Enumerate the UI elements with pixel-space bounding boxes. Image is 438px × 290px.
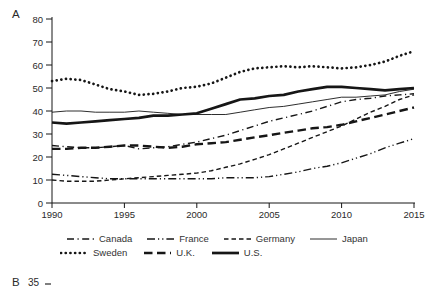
legend-label: Japan: [342, 233, 368, 244]
legend-label: U.K.: [176, 247, 194, 258]
line-chart: 0102030405060708019901995200020052010201…: [0, 0, 438, 232]
legend-line-sample-icon: [309, 234, 338, 244]
x-tick-label: 2000: [186, 209, 207, 220]
legend-line-sample-icon: [143, 248, 172, 258]
y-tick-label: 40: [32, 106, 43, 117]
series-line-france: [52, 139, 414, 179]
legend-item-france: France: [146, 233, 209, 244]
x-tick-label: 2015: [403, 209, 424, 220]
figure-panel: A 01020304050607080199019952000200520102…: [0, 0, 438, 290]
x-tick-label: 1990: [41, 209, 62, 220]
x-tick-label: 1995: [114, 209, 135, 220]
y-tick-label: 20: [32, 152, 43, 163]
legend-row: CanadaFranceGermanyJapan: [66, 233, 438, 244]
legend-item-sweden: Sweden: [60, 247, 127, 258]
legend-item-japan: Japan: [309, 233, 368, 244]
legend-label: Canada: [99, 233, 132, 244]
series-line-germany: [52, 95, 414, 181]
x-tick-label: 2010: [331, 209, 352, 220]
legend-label: Sweden: [93, 247, 127, 258]
legend-label: U.S.: [244, 247, 262, 258]
legend-item-canada: Canada: [66, 233, 132, 244]
chart-legend: CanadaFranceGermanyJapanSwedenU.K.U.S.: [0, 233, 438, 258]
x-tick-label: 2005: [259, 209, 280, 220]
legend-item-uk: U.K.: [143, 247, 194, 258]
panel-b-axis-tick: [0, 276, 60, 290]
y-tick-label: 30: [32, 129, 43, 140]
legend-line-sample-icon: [223, 234, 252, 244]
y-tick-label: 80: [32, 14, 43, 25]
legend-item-germany: Germany: [223, 233, 295, 244]
legend-line-sample-icon: [60, 248, 89, 258]
y-tick-label: 10: [32, 175, 43, 186]
y-tick-label: 0: [38, 198, 43, 209]
legend-line-sample-icon: [211, 248, 240, 258]
series-line-us: [52, 87, 414, 124]
legend-line-sample-icon: [66, 234, 95, 244]
y-tick-label: 70: [32, 37, 43, 48]
legend-line-sample-icon: [146, 234, 175, 244]
legend-row: SwedenU.K.U.S.: [60, 247, 438, 258]
y-tick-label: 60: [32, 60, 43, 71]
legend-label: Germany: [256, 233, 295, 244]
legend-item-us: U.S.: [211, 247, 262, 258]
y-tick-label: 50: [32, 83, 43, 94]
legend-label: France: [179, 233, 209, 244]
